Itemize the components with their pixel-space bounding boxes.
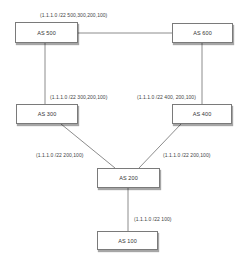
- node-label-as400: AS 400: [193, 111, 212, 117]
- as-path-label-as400-via-200: (1.1.1.0 /22 200,100): [163, 152, 210, 158]
- as-path-label-as200: (1.1.1.0 /22 100): [134, 216, 172, 222]
- node-as300: AS 300: [16, 104, 78, 124]
- node-label-as500: AS 500: [37, 30, 56, 36]
- as-path-label-as500: (1.1.1.0 /22 500,300,200,100): [40, 12, 107, 18]
- node-label-as300: AS 300: [38, 111, 57, 117]
- as-path-label-as300: (1.1.1.0 /22 300,200,100): [50, 94, 107, 100]
- node-label-as600: AS 600: [193, 30, 212, 36]
- edge-as300-as200: [61, 124, 115, 168]
- node-label-as100: AS 100: [118, 238, 137, 244]
- bgp-topology-diagram: AS 500 AS 600 AS 300 AS 400 AS 200 AS 10…: [0, 0, 247, 266]
- node-label-as200: AS 200: [119, 175, 138, 181]
- node-as400: AS 400: [172, 104, 232, 124]
- node-as200: AS 200: [97, 168, 160, 188]
- as-path-label-as300-via-200: (1.1.1.0 /22 200,100): [36, 152, 83, 158]
- node-as500: AS 500: [15, 22, 78, 43]
- edge-as400-as200: [139, 124, 181, 168]
- node-as600: AS 600: [172, 23, 233, 43]
- as-path-label-as400: (1.1.1.0 /22 400, 200,100): [137, 94, 196, 100]
- node-as100: AS 100: [97, 231, 158, 250]
